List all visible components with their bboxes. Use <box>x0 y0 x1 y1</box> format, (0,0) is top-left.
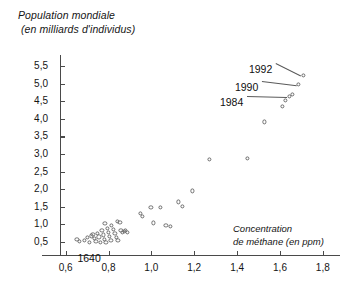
x-tick-label: 0,8 <box>92 262 126 273</box>
x-tick-mark <box>323 251 324 255</box>
y-tick-mark <box>61 84 65 85</box>
x-axis-label-line2: de méthane (en ppm) <box>233 235 324 248</box>
annotation-label: 1990 <box>235 81 258 93</box>
data-point <box>87 240 91 244</box>
data-point <box>116 238 120 242</box>
y-tick-label: 2,5 <box>18 166 48 177</box>
x-tick-mark <box>66 251 67 255</box>
annotation-label: 1992 <box>249 63 272 75</box>
data-point <box>141 214 145 218</box>
data-point <box>98 240 102 244</box>
y-tick-mark <box>61 136 65 137</box>
y-tick-label: 4,5 <box>18 95 48 106</box>
data-point <box>104 240 108 244</box>
x-tick-label: 1,4 <box>220 262 254 273</box>
y-tick-mark <box>61 101 65 102</box>
data-point <box>78 239 82 243</box>
data-point <box>177 200 181 204</box>
y-tick-label: 1,5 <box>18 201 48 212</box>
annotation-leader-line <box>247 96 287 98</box>
data-point <box>262 120 266 124</box>
y-tick-label: 2,0 <box>18 183 48 194</box>
x-tick-mark <box>109 251 110 255</box>
y-tick-label: 1,0 <box>18 218 48 229</box>
data-point <box>301 73 305 77</box>
y-tick-mark <box>61 207 65 208</box>
y-tick-label: 3,0 <box>18 148 48 159</box>
data-point <box>245 157 249 161</box>
data-point <box>191 189 195 193</box>
x-tick-mark <box>280 251 281 255</box>
data-point <box>297 83 301 87</box>
x-tick-label: 1,0 <box>134 262 168 273</box>
annotation-label: 1984 <box>220 96 243 108</box>
x-tick-mark <box>194 251 195 255</box>
annotation-leader-line <box>275 63 301 77</box>
data-point <box>291 92 295 96</box>
data-point <box>168 224 172 228</box>
y-tick-mark <box>61 172 65 173</box>
x-tick-label: 1,2 <box>177 262 211 273</box>
y-axis-label: Population mondiale (en milliards d'indi… <box>18 8 135 36</box>
x-tick-label: 1,8 <box>306 262 340 273</box>
data-point <box>101 233 105 237</box>
data-point <box>280 104 284 108</box>
y-tick-label: 0,5 <box>18 236 48 247</box>
data-point <box>126 230 130 234</box>
y-tick-label: 3,5 <box>18 130 48 141</box>
y-tick-mark <box>61 119 65 120</box>
scatter-chart: Population mondiale (en milliards d'indi… <box>0 0 350 293</box>
x-tick-label: 1,6 <box>263 262 297 273</box>
data-point <box>149 205 153 209</box>
y-tick-label: 5,5 <box>18 60 48 71</box>
x-axis-label: Concentration de méthane (en ppm) <box>233 222 324 248</box>
data-point <box>152 221 156 225</box>
data-point <box>283 98 287 102</box>
data-point <box>158 205 162 209</box>
y-tick-mark <box>61 189 65 190</box>
y-tick-label: 5,0 <box>18 78 48 89</box>
x-tick-label: 0,6 <box>49 262 83 273</box>
y-tick-mark <box>61 242 65 243</box>
data-point <box>103 221 107 225</box>
x-axis-label-line1: Concentration <box>233 222 324 235</box>
data-point <box>207 158 211 162</box>
y-axis-label-line2: (en milliards d'individus) <box>18 22 135 36</box>
y-tick-mark <box>61 224 65 225</box>
annotation-leader-line <box>262 81 296 86</box>
data-point <box>180 204 184 208</box>
annotation-label: 1640 <box>77 252 100 264</box>
y-axis-label-line1: Population mondiale <box>18 8 135 22</box>
x-tick-mark <box>237 251 238 255</box>
y-tick-mark <box>61 66 65 67</box>
x-tick-mark <box>151 251 152 255</box>
y-tick-mark <box>61 154 65 155</box>
y-tick-label: 4,0 <box>18 113 48 124</box>
data-point <box>109 238 113 242</box>
